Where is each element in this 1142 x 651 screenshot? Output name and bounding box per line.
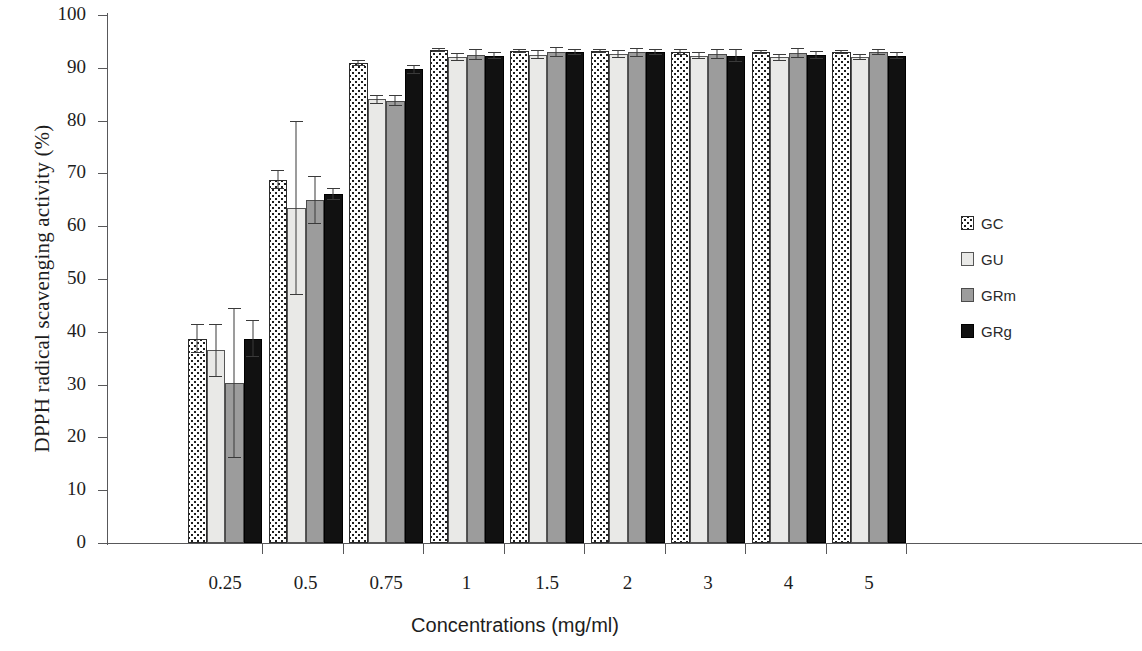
error-bar-cap-upper	[773, 54, 786, 55]
error-bar-grg-2	[646, 49, 665, 55]
error-bar-cap-lower	[407, 73, 420, 74]
error-bar-cap-lower	[370, 103, 383, 104]
bar-grm-3	[708, 54, 727, 543]
bar-grg-2	[646, 52, 665, 543]
x-tick-label: 3	[668, 572, 748, 594]
error-bar-cap-upper	[649, 49, 662, 50]
y-tick-label: 40	[26, 320, 86, 342]
error-bar-cap-lower	[649, 54, 662, 55]
error-bar-gc-3	[671, 49, 690, 54]
error-bar-cap-lower	[513, 52, 526, 53]
error-bar-cap-upper	[513, 49, 526, 50]
bar-gu-0-75	[368, 99, 387, 543]
error-bar-cap-upper	[209, 324, 222, 325]
error-bar-cap-upper	[593, 49, 606, 50]
error-bar-gu-3	[690, 52, 709, 59]
error-bar-gu-0-25	[207, 324, 226, 377]
bar-grg-4	[807, 55, 826, 543]
error-bar-cap-upper	[810, 51, 823, 52]
error-bar-cap-lower	[228, 457, 241, 458]
error-bar-grg-0-25	[244, 320, 263, 357]
bar-grm-0-75	[386, 101, 405, 543]
x-tick-label: 0.5	[266, 572, 346, 594]
bar-grg-0-25	[244, 339, 263, 543]
error-bar-cap-upper	[451, 53, 464, 54]
error-bar-cap-lower	[531, 58, 544, 59]
x-tick	[665, 543, 666, 554]
error-bar-cap-lower	[432, 51, 445, 52]
error-bar-cap-upper	[308, 176, 321, 177]
error-bar-cap-upper	[228, 308, 241, 309]
bar-grm-1	[467, 55, 486, 543]
error-bar-cap-lower	[271, 188, 284, 189]
error-bar-cap-lower	[773, 60, 786, 61]
error-bar-grm-3	[708, 49, 727, 60]
error-bar-grg-1	[485, 52, 504, 59]
x-axis-title: Concentrations (mg/ml)	[0, 614, 1030, 637]
error-bar-stem	[296, 121, 297, 295]
error-bar-cap-upper	[729, 49, 742, 50]
legend-label: GC	[981, 215, 1004, 232]
bar-gu-4	[770, 57, 789, 543]
bar-grg-1-5	[566, 52, 585, 543]
bar-grm-4	[789, 53, 808, 543]
error-bar-cap-lower	[308, 223, 321, 224]
error-bar-cap-upper	[612, 50, 625, 51]
bar-grg-0-5	[324, 194, 343, 543]
error-bar-cap-upper	[469, 49, 482, 50]
error-bar-stem	[314, 176, 315, 224]
error-bar-gu-4	[770, 54, 789, 61]
error-bar-cap-upper	[191, 324, 204, 325]
error-bar-stem	[252, 320, 253, 357]
y-tick-label: 70	[26, 161, 86, 183]
error-bar-cap-upper	[370, 95, 383, 96]
light-swatch	[961, 252, 974, 266]
error-bar-cap-lower	[791, 57, 804, 58]
x-tick	[343, 543, 344, 554]
x-tick	[262, 543, 263, 554]
legend: GCGUGRmGRg	[961, 208, 1031, 352]
x-tick-label: 0.75	[346, 572, 426, 594]
y-tick-label: 50	[26, 267, 86, 289]
bar-gc-0-75	[349, 63, 368, 543]
error-bar-cap-upper	[246, 320, 259, 321]
error-bar-cap-lower	[469, 59, 482, 60]
error-bar-cap-upper	[271, 170, 284, 171]
error-bar-cap-lower	[890, 58, 903, 59]
error-bar-gc-1	[430, 48, 449, 52]
legend-label: GRg	[981, 323, 1012, 340]
error-bar-cap-upper	[327, 188, 340, 189]
error-bar-cap-lower	[451, 60, 464, 61]
legend-label: GU	[981, 251, 1004, 268]
error-bar-grg-5	[888, 52, 907, 58]
error-bar-cap-lower	[835, 53, 848, 54]
error-bar-cap-lower	[568, 54, 581, 55]
x-tick	[584, 543, 585, 554]
error-bar-cap-upper	[711, 49, 724, 50]
error-bar-cap-lower	[754, 53, 767, 54]
bar-gc-1-5	[510, 51, 529, 543]
x-tick-label: 4	[749, 572, 829, 594]
legend-item-gu: GU	[961, 244, 1031, 274]
x-tick	[826, 543, 827, 554]
error-bar-cap-upper	[290, 121, 303, 122]
bar-gc-0-25	[188, 339, 207, 543]
y-tick-label: 80	[26, 109, 86, 131]
bar-grg-5	[888, 56, 907, 543]
error-bar-cap-upper	[630, 48, 643, 49]
error-bar-cap-lower	[191, 352, 204, 353]
x-tick-label: 1.5	[507, 572, 587, 594]
error-bar-stem	[197, 324, 198, 354]
bar-gu-2	[609, 54, 628, 543]
error-bar-stem	[277, 170, 278, 189]
error-bar-cap-upper	[872, 49, 885, 50]
bar-grg-1	[485, 56, 504, 543]
error-bar-cap-lower	[209, 376, 222, 377]
error-bar-cap-upper	[531, 50, 544, 51]
bar-grg-3	[727, 56, 746, 543]
error-bar-gc-0-75	[349, 60, 368, 65]
y-tick-label: 30	[26, 373, 86, 395]
legend-item-gc: GC	[961, 208, 1031, 238]
y-tick-label: 10	[26, 478, 86, 500]
y-tick-label: 60	[26, 214, 86, 236]
